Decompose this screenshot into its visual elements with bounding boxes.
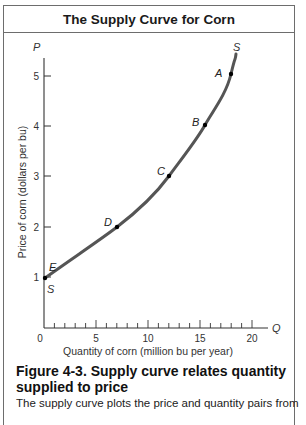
supply-curve	[45, 54, 236, 278]
y-ticks: 5 4 3 2 1	[33, 71, 51, 283]
point-label-c: C	[157, 165, 165, 177]
data-points: A B C D E	[43, 67, 233, 280]
x-tick-label: 15	[194, 333, 206, 344]
figure-body-text: The supply curve plots the price and qua…	[16, 396, 306, 410]
point-label-b: B	[192, 116, 199, 128]
y-tick-label: 3	[33, 171, 39, 182]
x-tick-labels: 0 5 10 15 20	[37, 333, 258, 344]
curve-label-top: S	[233, 41, 241, 53]
point-label-a: A	[214, 67, 222, 79]
x-tick-label: 20	[246, 333, 258, 344]
y-tick-label: 5	[33, 71, 39, 82]
figure-caption: Figure 4-3. Supply curve relates quantit…	[16, 363, 292, 395]
x-axis-title: Quantity of corn (million bu per year)	[63, 345, 233, 357]
point-c	[167, 174, 171, 178]
x-ticks	[54, 320, 252, 328]
y-tick-label: 1	[33, 272, 39, 283]
y-axis-title: Price of corn (dollars per bu)	[16, 126, 28, 258]
x-tick-label: 10	[142, 333, 154, 344]
curve-label-bottom: S	[47, 283, 55, 295]
y-tick-label: 2	[33, 222, 39, 233]
point-a	[229, 72, 233, 76]
y-tick-label: 4	[33, 121, 39, 132]
y-axis-symbol: P	[33, 41, 41, 53]
point-e	[43, 276, 47, 280]
point-label-d: D	[104, 216, 112, 228]
point-label-e: E	[49, 261, 57, 273]
x-tick-label: 0	[37, 333, 43, 344]
point-b	[203, 123, 207, 127]
point-d	[115, 225, 119, 229]
x-tick-label: 5	[93, 333, 99, 344]
x-axis-symbol: Q	[272, 322, 281, 334]
